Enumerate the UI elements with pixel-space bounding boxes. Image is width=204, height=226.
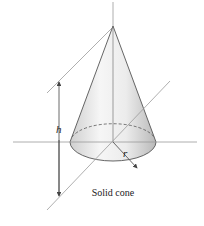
radius-label: r <box>123 147 128 159</box>
solid-cone-diagram: h r Solid cone <box>0 0 204 226</box>
figure-caption: Solid cone <box>92 187 135 198</box>
height-label: h <box>56 123 62 135</box>
